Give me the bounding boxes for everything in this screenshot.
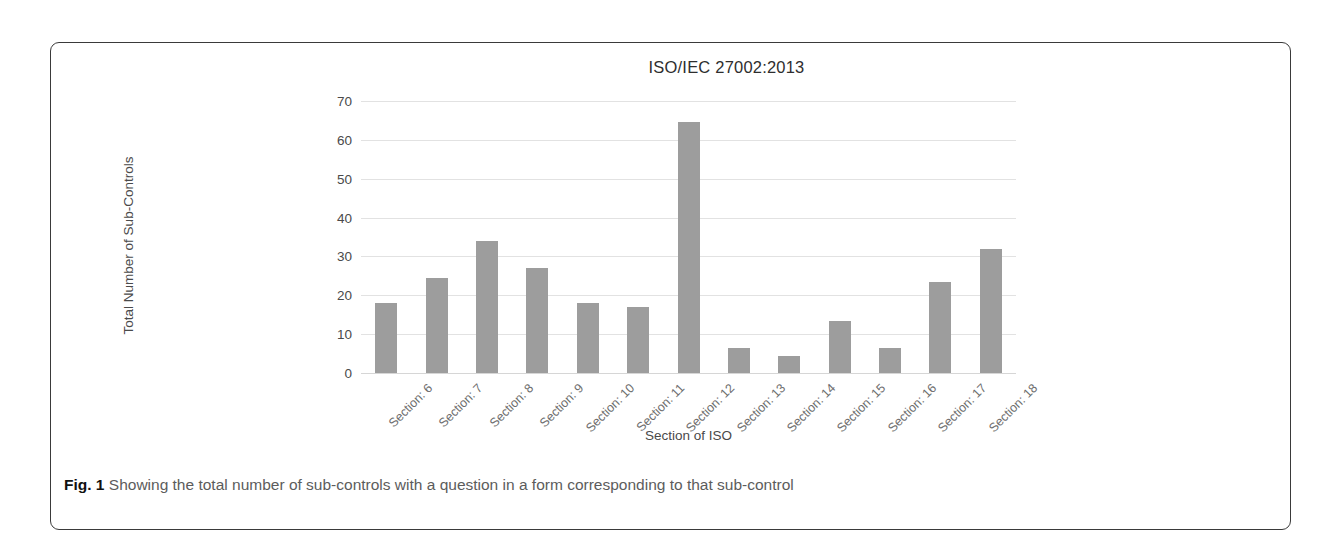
bar-series xyxy=(361,101,1016,373)
bar xyxy=(929,282,951,373)
gridline xyxy=(361,373,1016,374)
x-axis-title: Section of ISO xyxy=(361,428,1016,443)
y-axis-tick-label: 40 xyxy=(337,210,352,225)
figure-number: Fig. 1 xyxy=(64,476,104,493)
y-axis-tick-label: 10 xyxy=(337,327,352,342)
bar xyxy=(778,356,800,373)
y-axis-tick-label: 20 xyxy=(337,288,352,303)
bar xyxy=(476,241,498,373)
figure-caption: Fig. 1 Showing the total number of sub-c… xyxy=(64,475,1279,496)
bar xyxy=(980,249,1002,373)
y-axis-tick-label: 70 xyxy=(337,94,352,109)
bar xyxy=(627,307,649,373)
bar xyxy=(879,348,901,373)
bar xyxy=(426,278,448,373)
bar xyxy=(829,321,851,373)
plot-area: 010203040506070 Section: 6Section: 7Sect… xyxy=(361,101,1016,373)
y-axis-tick-label: 0 xyxy=(344,366,352,381)
bar xyxy=(526,268,548,373)
bar xyxy=(577,303,599,373)
y-axis-tick-label: 50 xyxy=(337,171,352,186)
figure-frame: ISO/IEC 27002:2013 Total Number of Sub-C… xyxy=(50,42,1291,530)
bar xyxy=(728,348,750,373)
bar xyxy=(375,303,397,373)
bar xyxy=(678,122,700,373)
figure-caption-text: Showing the total number of sub-controls… xyxy=(109,476,794,493)
chart-area: ISO/IEC 27002:2013 Total Number of Sub-C… xyxy=(51,43,1292,463)
y-axis-tick-label: 60 xyxy=(337,132,352,147)
chart-title: ISO/IEC 27002:2013 xyxy=(51,58,1292,77)
y-axis-tick-label: 30 xyxy=(337,249,352,264)
y-axis-title: Total Number of Sub-Controls xyxy=(121,116,136,376)
